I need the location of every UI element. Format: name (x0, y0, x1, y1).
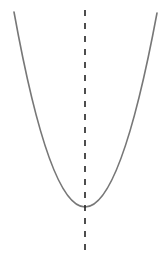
parabola-diagram (0, 0, 160, 271)
diagram-svg (0, 0, 160, 271)
